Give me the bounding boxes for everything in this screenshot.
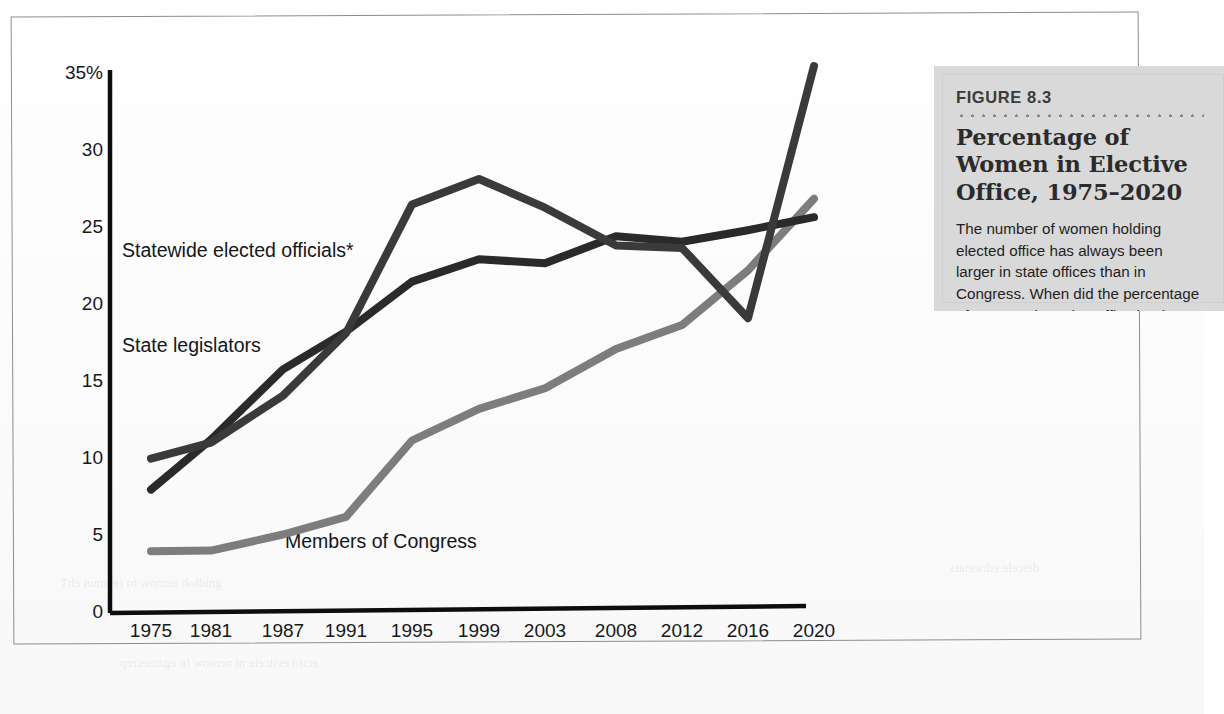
dotted-rule-divider — [956, 109, 1204, 117]
figure-number-label: FIGURE 8.3 — [956, 88, 1204, 107]
figure-caption-box: FIGURE 8.3 Percentage of Women in Electi… — [934, 66, 1224, 311]
figure-title: Percentage of Women in Elective Office, … — [956, 124, 1204, 206]
x-axis-line — [110, 606, 806, 613]
figure-description: The number of women holding elected offi… — [956, 218, 1204, 311]
series-line-state-legislators — [151, 217, 814, 489]
series-line-members-of-congress — [151, 199, 814, 552]
